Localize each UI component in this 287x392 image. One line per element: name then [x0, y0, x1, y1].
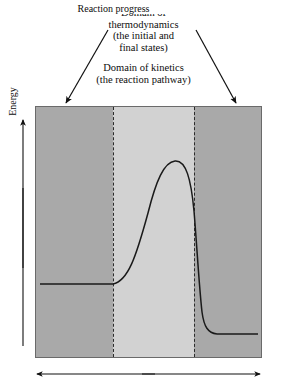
x-axis — [35, 364, 262, 388]
y-axis-label: Energy — [7, 72, 18, 132]
energy-curve-layer — [36, 107, 261, 357]
callout-kinetics: Domain of kinetics (the reaction pathway… — [0, 62, 287, 85]
x-axis-label-wrap: Reaction progress — [0, 3, 227, 14]
activation-energy-curve — [113, 161, 217, 334]
callout-thermodynamics-line-3: (the initial and — [0, 30, 287, 42]
callout-thermodynamics-line-4: final states) — [0, 42, 287, 54]
reaction-energy-diagram: Domain of thermodynamics (the initial an… — [0, 0, 287, 392]
callout-kinetics-line-2: (the reaction pathway) — [0, 74, 287, 86]
x-axis-label: Reaction progress — [74, 3, 154, 14]
callout-thermodynamics-line-2: thermodynamics — [0, 19, 287, 31]
plot-area: Reactants Products — [35, 106, 262, 358]
y-axis — [0, 118, 30, 350]
callout-kinetics-line-1: Domain of kinetics — [0, 62, 287, 74]
